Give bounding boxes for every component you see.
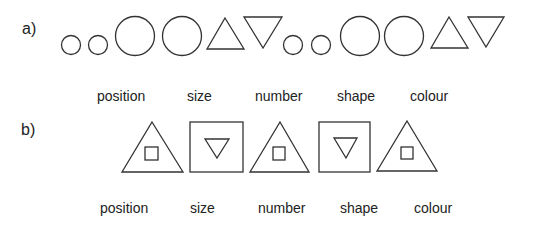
triangle-up-icon <box>207 18 244 49</box>
row-a-option-shape: shape <box>337 88 375 104</box>
triangle-with-square-icon <box>250 122 309 172</box>
row-b-option-number: number <box>258 200 305 216</box>
square-with-triangle-icon <box>190 122 243 172</box>
triangle-with-square-icon <box>122 122 183 172</box>
row-b-sequence <box>122 121 437 172</box>
triangle-down-icon <box>468 17 504 47</box>
triangle-with-square-icon <box>377 121 437 171</box>
row-a-option-position: position <box>97 88 145 104</box>
large-circle-icon <box>341 17 380 56</box>
small-circle-icon <box>89 36 108 55</box>
row-a-sequence <box>62 17 505 56</box>
row-b-option-colour: colour <box>414 200 452 216</box>
large-circle-icon <box>385 17 424 56</box>
row-b-option-size: size <box>190 200 215 216</box>
large-circle-icon <box>163 17 202 56</box>
triangle-down-icon <box>244 17 282 48</box>
small-circle-icon <box>62 36 81 55</box>
large-circle-icon <box>116 17 155 56</box>
row-b-option-shape: shape <box>340 200 378 216</box>
row-a-option-colour: colour <box>410 88 448 104</box>
small-circle-icon <box>284 36 303 55</box>
row-a-option-number: number <box>255 88 302 104</box>
row-b-option-position: position <box>100 200 148 216</box>
small-circle-icon <box>312 36 331 55</box>
row-a-option-size: size <box>187 88 212 104</box>
triangle-up-icon <box>431 17 468 48</box>
figure-canvas <box>0 0 554 232</box>
square-with-triangle-icon <box>319 122 370 172</box>
